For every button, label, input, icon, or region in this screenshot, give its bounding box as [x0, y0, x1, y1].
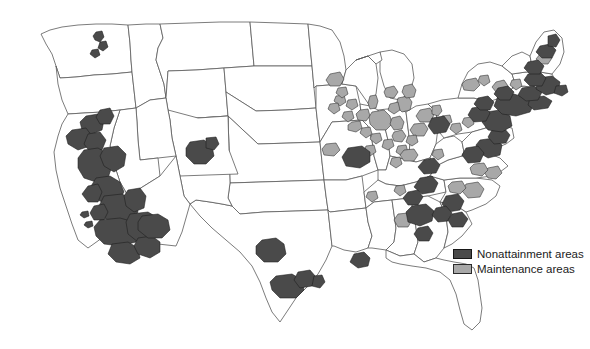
- legend-swatch-maintenance-icon: [453, 264, 472, 274]
- legend-item-maintenance: Maintenance areas: [453, 262, 588, 275]
- map-legend: Nonattainment areas Maintenance areas: [453, 247, 588, 277]
- legend-swatch-nonattainment-icon: [453, 249, 472, 259]
- legend-label-nonattainment: Nonattainment areas: [477, 248, 584, 260]
- legend-item-nonattainment: Nonattainment areas: [453, 247, 588, 260]
- legend-label-maintenance: Maintenance areas: [477, 263, 575, 275]
- us-nonattainment-map: Nonattainment areas Maintenance areas: [0, 0, 590, 349]
- us-map-svg: [0, 0, 590, 349]
